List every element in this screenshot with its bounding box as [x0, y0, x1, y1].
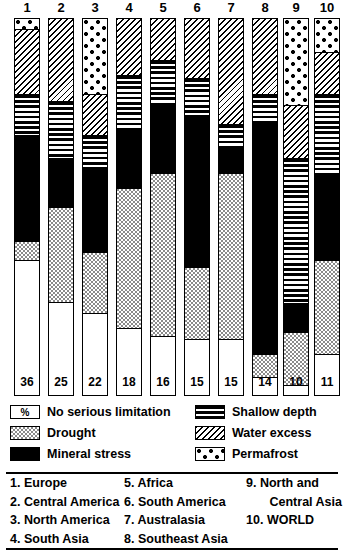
bar-value-label: 22	[83, 375, 107, 389]
region-name: Australasia	[137, 513, 204, 527]
region-name: WORLD	[267, 513, 314, 527]
region-name: Europe	[24, 476, 67, 490]
bar-segment-drought	[219, 174, 243, 340]
column-header-1: 1	[14, 0, 40, 16]
region-list-item: 5. Africa	[124, 474, 173, 492]
column-header-6: 6	[184, 0, 210, 16]
bar-segment-shallow-depth	[49, 102, 73, 159]
stacked-bar: 15	[184, 18, 210, 396]
region-number: 3.	[10, 511, 20, 529]
region-list-item: 1. Europe	[10, 474, 67, 492]
bar-segment-water-excess	[151, 19, 175, 61]
bar-segment-drought	[15, 242, 39, 261]
bar-value-label: 15	[185, 375, 209, 389]
bar-value-label: 14	[253, 375, 277, 389]
region-list-item: 2. Central America	[10, 493, 119, 511]
column-header-9: 9	[283, 0, 309, 16]
bar-segment-mineral-stress	[219, 148, 243, 174]
bar-segment-water-excess	[117, 19, 141, 76]
bar-segment-permafrost	[284, 19, 308, 106]
legend-label: No serious limitation	[47, 404, 171, 421]
bar-segment-permafrost	[315, 19, 339, 53]
legend-label: Shallow depth	[232, 404, 317, 421]
bar-segment-water-excess	[284, 106, 308, 159]
bar-segment-shallow-depth	[83, 136, 107, 170]
legend-swatch-permafrost	[195, 447, 225, 461]
region-name: North and	[260, 476, 319, 490]
bar-segment-shallow-depth	[117, 76, 141, 133]
region-list-item: 4. South Asia	[10, 530, 89, 548]
bar-segment-water-excess	[83, 95, 107, 137]
bar-segment-mineral-stress	[315, 174, 339, 261]
legend-label: Mineral stress	[47, 446, 131, 463]
region-number: 5.	[124, 474, 134, 492]
bar-segment-shallow-depth	[253, 95, 277, 125]
region-list-item: 8. Southeast Asia	[124, 530, 228, 548]
region-name: South America	[138, 495, 226, 509]
region-number: 10.	[246, 511, 263, 529]
column-header-4: 4	[116, 0, 142, 16]
column-header-8: 8	[252, 0, 278, 16]
stacked-bar: 16	[150, 18, 176, 396]
bar-segment-mineral-stress	[117, 132, 141, 189]
bar-value-label: 25	[49, 375, 73, 389]
stacked-bar: 10	[283, 18, 309, 396]
column-header-3: 3	[82, 0, 108, 16]
stacked-bar: 36	[14, 18, 40, 396]
bar-segment-mineral-stress	[151, 106, 175, 174]
region-list-item: 3. North America	[10, 511, 110, 529]
bar-segment-permafrost	[83, 19, 107, 95]
legend-swatch-mineral	[10, 447, 40, 461]
bar-segment-shallow-depth	[315, 95, 339, 174]
bar-segment-drought	[151, 174, 175, 337]
bar-segment-water-excess	[253, 19, 277, 95]
bar-segment-water-excess	[185, 19, 209, 79]
bar-segment-water-excess	[315, 53, 339, 95]
bar-segment-shallow-depth	[185, 79, 209, 117]
bar-value-label: 11	[315, 375, 339, 389]
stacked-bar: 22	[82, 18, 108, 396]
percent-symbol: %	[11, 407, 39, 418]
region-key-list: 1. Europe2. Central America3. North Amer…	[6, 474, 340, 548]
bar-value-label: 18	[117, 375, 141, 389]
bar-segment-drought	[49, 208, 73, 303]
column-header-7: 7	[218, 0, 244, 16]
legend-swatch-shallow	[195, 405, 225, 419]
region-name: South Asia	[24, 532, 89, 546]
region-number: 4.	[10, 530, 20, 548]
bar-segment-mineral-stress	[83, 170, 107, 253]
region-number: 6.	[124, 493, 134, 511]
bar-value-label: 16	[151, 375, 175, 389]
chart-legend: %No serious limitationDroughtMineral str…	[10, 404, 336, 466]
bar-segment-mineral-stress	[284, 303, 308, 333]
bar-segment-mineral-stress	[15, 136, 39, 242]
bar-segment-drought	[315, 261, 339, 356]
legend-swatch-none: %	[10, 405, 40, 419]
region-name: Central America	[24, 495, 119, 509]
region-name: Southeast Asia	[138, 532, 228, 546]
legend-label: Drought	[47, 425, 96, 442]
column-header-5: 5	[150, 0, 176, 16]
legend-label: Permafrost	[232, 446, 298, 463]
region-number: 7.	[124, 511, 134, 529]
stacked-bar: 11	[314, 18, 340, 396]
bar-segment-drought	[117, 189, 141, 329]
region-name: Central Asia	[269, 495, 341, 509]
stacked-bar: 15	[218, 18, 244, 396]
legend-swatch-drought	[10, 426, 40, 440]
region-list-item: Central Asia	[266, 493, 342, 511]
bar-segment-shallow-depth	[151, 61, 175, 106]
bar-segment-drought	[83, 253, 107, 313]
bar-segment-shallow-depth	[15, 95, 39, 137]
region-number: 8.	[124, 530, 134, 548]
region-list-item: 6. South America	[124, 493, 226, 511]
bar-value-label: 15	[219, 375, 243, 389]
legend-swatch-water	[195, 426, 225, 440]
region-list-item: 10. WORLD	[246, 511, 314, 529]
stacked-bar: 25	[48, 18, 74, 396]
divider-bottom	[6, 548, 338, 550]
stacked-bar: 14	[252, 18, 278, 396]
region-name: Africa	[137, 476, 172, 490]
region-list-item: 7. Australasia	[124, 511, 205, 529]
legend-label: Water excess	[232, 425, 311, 442]
